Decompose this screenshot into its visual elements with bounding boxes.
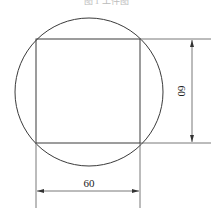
drawing: 图 1 工件图 60 60 xyxy=(0,0,213,218)
height-dimension-label: 60 xyxy=(176,86,188,98)
inscribed-square xyxy=(36,39,140,143)
width-dimension-label: 60 xyxy=(84,177,96,189)
arrowhead-down xyxy=(190,135,194,142)
arrowhead-up xyxy=(190,40,194,47)
figure-caption: 图 1 工件图 xyxy=(84,0,129,6)
arrowhead-left xyxy=(37,189,44,193)
outer-circle xyxy=(15,18,163,166)
arrowhead-right xyxy=(132,189,139,193)
